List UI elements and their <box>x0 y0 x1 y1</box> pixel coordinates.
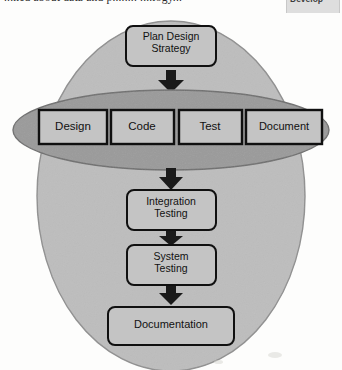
test-box <box>179 110 242 144</box>
documentation-box <box>108 307 234 345</box>
code-box <box>111 110 174 144</box>
plan-design-strategy-box <box>126 26 216 66</box>
scan-speckle <box>268 352 282 358</box>
document-box <box>246 110 322 144</box>
integration-testing-box <box>127 190 216 230</box>
scan-speckle <box>214 360 223 364</box>
lifecycle-diagram <box>0 0 342 370</box>
system-testing-box <box>127 245 216 285</box>
figure-page: ...ned about data and p........ ....logy… <box>0 0 342 370</box>
diagram-canvas <box>0 0 342 370</box>
design-box <box>39 110 107 144</box>
